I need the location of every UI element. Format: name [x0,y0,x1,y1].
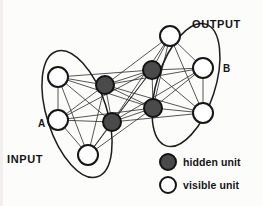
node-hidden-h2 [143,61,161,79]
node-visible-a3 [78,145,98,165]
node-visible-a2 [48,110,68,130]
node-visible-a1 [48,67,68,87]
network-diagram: AINPUTBOUTPUT hidden unitvisible unit [0,0,263,206]
node-visible-b3 [193,103,213,123]
node-hidden-h4 [144,99,162,117]
legend: hidden unitvisible unit [160,154,241,193]
legend-label-visible: visible unit [183,179,239,191]
group-tag-b: B [223,63,230,74]
group-tag-a: A [38,118,45,129]
diagram-canvas: AINPUTBOUTPUT hidden unitvisible unit [0,0,263,206]
node-hidden-h3 [103,113,121,131]
group-boundary-b [139,15,234,155]
group-label-input: INPUT [7,153,43,165]
legend-swatch-hidden [160,154,176,170]
node-visible-b1 [160,26,180,46]
node-visible-b2 [193,58,213,78]
node-layer [48,26,213,165]
node-hidden-h1 [96,76,114,94]
edge-layer [58,36,203,155]
group-label-output: OUTPUT [192,18,241,30]
legend-swatch-visible [160,177,176,193]
legend-label-hidden: hidden unit [183,156,241,168]
